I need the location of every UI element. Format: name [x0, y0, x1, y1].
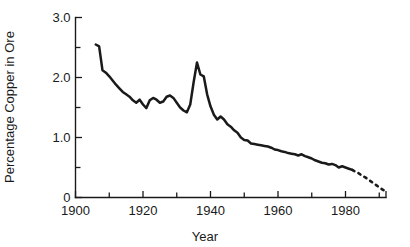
x-axis-tick-labels: 19001920194019601980	[61, 203, 360, 218]
series-line-historical	[96, 45, 353, 170]
x-axis-ticks	[76, 191, 387, 198]
x-tick-label: 1940	[196, 203, 225, 218]
chart-container: 01.02.03.0 19001920194019601980 Year Per…	[0, 0, 410, 247]
y-tick-label: 3.0	[52, 10, 70, 25]
y-tick-label: 2.0	[52, 70, 70, 85]
x-tick-label: 1920	[129, 203, 158, 218]
y-axis-title: Percentage Copper in Ore	[2, 31, 17, 183]
series-line-projected	[352, 170, 386, 192]
line-chart: 01.02.03.0 19001920194019601980 Year Per…	[0, 0, 410, 247]
x-axis-title: Year	[192, 229, 219, 244]
x-tick-label: 1980	[331, 203, 360, 218]
y-tick-label: 1.0	[52, 130, 70, 145]
x-tick-label: 1900	[61, 203, 90, 218]
y-axis-ticks	[76, 18, 83, 198]
axes	[76, 18, 387, 198]
x-tick-label: 1960	[264, 203, 293, 218]
y-axis-tick-labels: 01.02.03.0	[52, 10, 70, 205]
data-series-group	[96, 45, 386, 192]
